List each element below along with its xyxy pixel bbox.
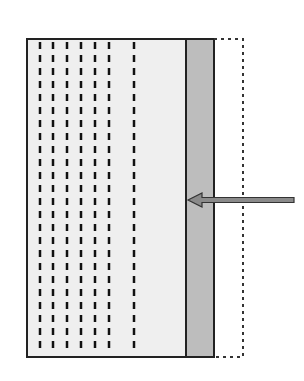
diagram-canvas — [0, 0, 304, 381]
main-block — [27, 39, 186, 357]
